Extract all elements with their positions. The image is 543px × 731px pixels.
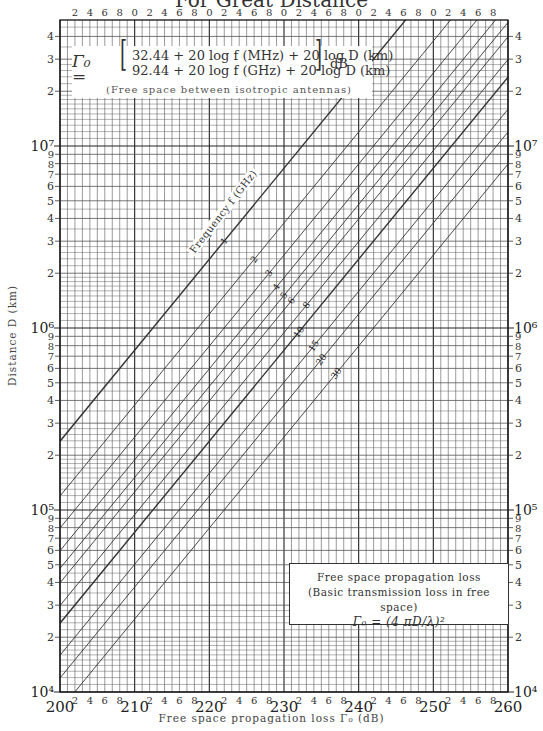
y-minor-tick-label: 3	[47, 53, 54, 66]
y-minor-tick-label: 3	[47, 235, 54, 248]
x-minor-tick-label: 6	[102, 695, 108, 706]
y-minor-tick-label: 4	[515, 394, 522, 407]
y-decade-label: 10⁴	[31, 684, 55, 700]
y-minor-tick-label: 7	[515, 533, 521, 544]
formula-row-ghz: 92.44 + 20 log f (GHz) + 20 log D (km)	[132, 63, 393, 78]
x-minor-tick-label: 2	[370, 695, 376, 706]
x-minor-tick-label: 6	[176, 695, 182, 706]
top-tick-label: 2	[370, 7, 376, 18]
y-minor-tick-label: 5	[515, 559, 522, 572]
y-minor-tick-label: 4	[47, 576, 54, 589]
legend-formula: Γ₀ = (4 πD/λ)²	[290, 615, 508, 630]
y-decade-label: 10⁷	[514, 138, 538, 154]
top-tick-label: 4	[460, 7, 466, 18]
y-minor-tick-label: 7	[48, 533, 54, 544]
x-minor-tick-label: 2	[445, 695, 451, 706]
y-minor-tick-label: 3	[515, 599, 522, 612]
x-minor-tick-label: 8	[266, 695, 272, 706]
bracket-right: ]	[315, 46, 322, 61]
top-tick-label: 2	[72, 7, 78, 18]
y-minor-tick-label: 7	[515, 351, 521, 362]
y-decade-label: 10⁶	[31, 320, 55, 336]
x-minor-tick-label: 6	[251, 695, 257, 706]
y-minor-tick-label: 2	[47, 267, 54, 280]
x-minor-tick-label: 8	[117, 695, 123, 706]
top-tick-label: 8	[490, 7, 496, 18]
top-tick-label: 4	[161, 7, 167, 18]
top-tick-label: 0	[281, 7, 287, 18]
x-minor-tick-label: 6	[400, 695, 406, 706]
frequency-label: 20	[314, 352, 329, 367]
x-minor-tick-label: 2	[296, 695, 302, 706]
x-minor-tick-label: 4	[460, 695, 466, 706]
y-minor-tick-label: 4	[515, 212, 522, 225]
y-minor-tick-label: 4	[515, 30, 522, 43]
top-tick-label: 2	[146, 7, 152, 18]
top-tick-label: 8	[415, 7, 421, 18]
y-minor-tick-label: 7	[48, 351, 54, 362]
top-tick-label: 4	[87, 7, 93, 18]
x-minor-tick-label: 8	[490, 695, 496, 706]
top-tick-label: 8	[341, 7, 347, 18]
x-minor-tick-label: 4	[311, 695, 317, 706]
x-minor-tick-label: 6	[326, 695, 332, 706]
y-minor-tick-label: 6	[47, 362, 54, 375]
y-minor-tick-label: 2	[47, 449, 54, 462]
legend-box: Free space propagation loss (Basic trans…	[289, 563, 509, 625]
top-tick-label: 0	[206, 7, 212, 18]
top-tick-label: 8	[117, 7, 123, 18]
y-minor-tick-label: 2	[515, 267, 522, 280]
top-tick-label: 4	[385, 7, 391, 18]
y-decade-label: 10⁶	[514, 320, 538, 336]
y-minor-tick-label: 5	[515, 377, 522, 390]
formula-note: (Free space between isotropic antennas)	[106, 82, 352, 97]
y-minor-tick-label: 2	[515, 449, 522, 462]
x-axis-label: Free space propagation loss Γ₀ (dB)	[0, 712, 543, 724]
formula-unit: dB	[330, 56, 348, 71]
top-tick-label: 6	[326, 7, 332, 18]
top-tick-label: 2	[445, 7, 451, 18]
x-minor-tick-label: 8	[191, 695, 197, 706]
y-minor-tick-label: 7	[515, 169, 521, 180]
top-tick-label: 6	[400, 7, 406, 18]
y-minor-tick-label: 6	[47, 180, 54, 193]
y-minor-tick-label: 7	[48, 169, 54, 180]
x-minor-tick-label: 8	[415, 695, 421, 706]
top-tick-label: 4	[311, 7, 317, 18]
formula-symbol: Γ₀ =	[72, 54, 91, 84]
x-minor-tick-label: 4	[87, 695, 93, 706]
top-tick-label: 8	[266, 7, 272, 18]
x-minor-tick-label: 8	[341, 695, 347, 706]
y-minor-tick-label: 3	[515, 417, 522, 430]
y-minor-tick-label: 4	[47, 30, 54, 43]
top-tick-label: 2	[221, 7, 227, 18]
bracket-left: [	[120, 46, 127, 61]
y-minor-tick-label: 2	[515, 631, 522, 644]
top-tick-label: 0	[131, 7, 137, 18]
top-tick-label: 2	[296, 7, 302, 18]
x-minor-tick-label: 2	[221, 695, 227, 706]
formula-rows: 32.44 + 20 log f (MHz) + 20 log D (km) 9…	[132, 48, 393, 78]
formula-row-mhz: 32.44 + 20 log f (MHz) + 20 log D (km)	[132, 48, 393, 63]
y-minor-tick-label: 5	[47, 559, 54, 572]
y-minor-tick-label: 6	[515, 362, 522, 375]
y-minor-tick-label: 6	[47, 544, 54, 557]
y-minor-tick-label: 3	[47, 599, 54, 612]
top-tick-label: 6	[102, 7, 108, 18]
y-decade-label: 10⁵	[31, 502, 55, 518]
y-minor-tick-label: 6	[515, 544, 522, 557]
legend-title: Free space propagation loss	[290, 570, 508, 585]
y-minor-tick-label: 4	[47, 394, 54, 407]
y-decade-label: 10⁵	[514, 502, 538, 518]
y-decade-label: 10⁴	[514, 684, 538, 700]
x-minor-tick-label: 4	[161, 695, 167, 706]
top-tick-label: 0	[355, 7, 361, 18]
frequency-label: 30	[329, 366, 344, 381]
y-minor-tick-label: 2	[47, 631, 54, 644]
y-axis-label: Distance D (km)	[6, 286, 18, 386]
y-decade-label: 10⁷	[31, 138, 55, 154]
y-minor-tick-label: 3	[515, 53, 522, 66]
top-tick-label: 6	[251, 7, 257, 18]
x-minor-tick-label: 4	[385, 695, 391, 706]
y-minor-tick-label: 4	[47, 212, 54, 225]
